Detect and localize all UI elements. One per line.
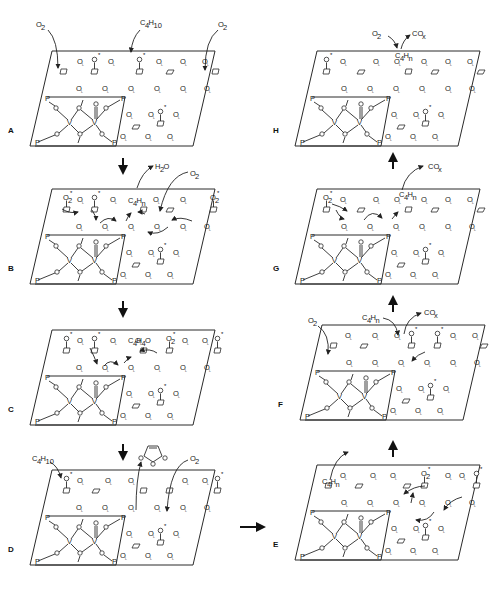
o2-gas-label: O2 <box>308 316 317 328</box>
vanadyl-oxygen <box>94 102 98 106</box>
bridging-oxygen <box>77 106 81 110</box>
lattice-oxygen-sub: L <box>424 228 426 232</box>
lattice-oxygen-sub: L <box>172 138 174 142</box>
bond-line <box>82 404 93 412</box>
lattice-oxygen-sub: L <box>372 228 374 232</box>
bridging-oxygen <box>77 525 81 529</box>
oxygen-transfer-arrow <box>411 493 413 503</box>
phosphorus-atom: P <box>121 373 126 382</box>
oxygen-atom <box>215 336 220 341</box>
radical-star: * <box>415 326 418 332</box>
bond-line <box>96 544 101 551</box>
lattice-oxygen: OL <box>102 503 109 513</box>
vacancy-site <box>397 125 405 129</box>
bond-line <box>314 240 320 244</box>
bond-line <box>347 125 358 133</box>
bridging-oxygen <box>54 106 58 110</box>
bond-line <box>82 263 93 271</box>
lattice-oxygen-sub: L <box>153 116 155 120</box>
lattice-oxygen: OL <box>105 476 112 486</box>
lattice-oxygen: OL <box>108 57 115 67</box>
bond-line <box>96 125 101 132</box>
panel-f: FPPPPVVOLOLOLOLOLOL*OLOLOL**OLOLOLOLOLOL… <box>278 325 488 421</box>
radical-star: * <box>98 190 101 196</box>
lattice-oxygen-sub: L <box>426 63 428 67</box>
bridging-oxygen <box>319 106 323 110</box>
lattice-oxygen: OL <box>145 132 152 142</box>
oxygen-atom <box>409 331 414 336</box>
lattice-oxygen-sub: L <box>172 417 174 421</box>
metal-site <box>323 69 330 74</box>
bond-line <box>361 263 366 270</box>
lattice-oxygen-sub: L <box>81 369 83 373</box>
lattice-oxygen: OL <box>367 498 374 508</box>
panel-b: BPPPPVVOLOLOLOLOLOL*O2*OL*OLOLOLO2*OLOLO… <box>8 189 220 285</box>
bond-line <box>49 102 55 106</box>
bridging-oxygen <box>365 270 369 274</box>
bond-line <box>324 539 333 547</box>
lattice-oxygen-sub: L <box>153 254 155 258</box>
lattice-oxygen-sub: L <box>185 509 187 513</box>
lattice-oxygen: OL <box>424 358 431 368</box>
radical-star: * <box>330 52 333 58</box>
o2-gas-label: O2 <box>36 20 45 32</box>
bond-line <box>71 389 78 399</box>
bond-line <box>314 102 320 106</box>
bridging-oxygen <box>100 411 104 415</box>
lattice-oxygen: OL <box>390 406 397 416</box>
radical-star: * <box>217 190 220 196</box>
oxygen-atom <box>158 109 163 114</box>
lattice-oxygen-sub: L <box>178 535 180 539</box>
metal-site <box>157 121 164 126</box>
lattice-oxygen: OL <box>76 503 83 513</box>
bond-line <box>108 519 120 526</box>
vacancy-site <box>166 208 174 212</box>
bridging-oxygen <box>374 380 378 384</box>
bridging-oxygen <box>104 385 108 389</box>
bond-line <box>346 514 348 520</box>
metal-site <box>166 348 173 353</box>
lattice-oxygen-sub: L <box>399 201 401 205</box>
bond-line <box>336 248 343 258</box>
lattice-oxygen-sub: L <box>429 364 431 368</box>
lattice-oxygen: OL <box>413 110 420 120</box>
phosphorus-atom: P <box>35 276 40 285</box>
bridging-oxygen <box>369 106 373 110</box>
maleic-anhydride-desorb-arrow <box>136 462 141 510</box>
lattice-oxygen-sub: L <box>350 337 352 341</box>
lattice-oxygen: OL <box>110 195 117 205</box>
vanadyl-oxygen <box>94 240 98 244</box>
phosphorus-atom: P <box>386 232 391 241</box>
lattice-oxygen: OL <box>390 471 397 481</box>
lattice-oxygen-sub: L <box>395 477 397 481</box>
water-gas-label: H2O <box>155 162 170 174</box>
bridging-oxygen <box>104 525 108 529</box>
lattice-oxygen-sub: L <box>395 412 397 416</box>
lattice-oxygen: OL <box>472 331 479 341</box>
lattice-oxygen-sub: L <box>474 228 476 232</box>
bond-line <box>78 275 80 281</box>
lattice-oxygen: OL <box>340 471 347 481</box>
radical-star: * <box>164 523 167 529</box>
lattice-oxygen: OL <box>77 476 84 486</box>
bridging-oxygen <box>365 546 369 550</box>
lattice-oxygen-sub: L <box>185 228 187 232</box>
metal-site <box>157 259 164 264</box>
metal-site <box>214 348 221 353</box>
panel-c: CPPPPVVOLOLOLOLOLOL**OL*OLOLO2*OLOL*OLOL… <box>8 330 224 426</box>
oxygen-atom <box>158 388 163 393</box>
metal-site <box>157 400 164 405</box>
bond-line <box>59 404 68 412</box>
lattice-oxygen: OL <box>153 195 160 205</box>
metal-site <box>323 207 330 212</box>
lattice-oxygen: OL <box>419 84 426 94</box>
lattice-oxygen-sub: L <box>82 342 84 346</box>
lattice-oxygen-sub: L <box>420 412 422 416</box>
lattice-oxygen-sub: L <box>187 342 189 346</box>
lattice-oxygen: OL <box>126 110 133 120</box>
formula-subscript: x <box>434 311 438 320</box>
radical-star: * <box>143 52 146 58</box>
lattice-oxygen: OL <box>180 363 187 373</box>
radical-star: * <box>164 104 167 110</box>
vacancy-site <box>357 208 365 212</box>
